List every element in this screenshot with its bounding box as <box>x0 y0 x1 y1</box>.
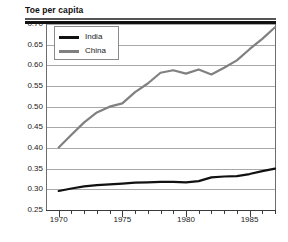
legend-swatch-china <box>59 50 79 53</box>
x-axis-minor-tick <box>275 210 276 214</box>
y-axis-tick-label: 0.25 <box>27 206 43 214</box>
title-underline <box>25 18 276 20</box>
y-axis-tick-label: 0.45 <box>27 123 43 131</box>
x-axis-minor-tick <box>161 210 162 214</box>
x-axis-minor-tick <box>211 210 212 214</box>
y-axis-tick-label: 0.40 <box>27 144 43 152</box>
legend-label-china: China <box>85 47 106 55</box>
x-axis-minor-tick <box>135 210 136 214</box>
x-axis-minor-tick <box>84 210 85 214</box>
y-axis-tick-label: 0.70 <box>27 20 43 28</box>
chart-legend: India China <box>54 26 119 60</box>
x-axis-minor-tick <box>173 210 174 214</box>
x-axis-minor-tick <box>148 210 149 214</box>
y-axis-tick-label: 0.65 <box>27 41 43 49</box>
x-axis-minor-tick <box>97 210 98 214</box>
plot-right-border <box>275 24 276 210</box>
chart-title: Toe per capita <box>25 5 83 15</box>
y-axis-tick-label: 0.30 <box>27 185 43 193</box>
x-axis-minor-tick <box>110 210 111 214</box>
chart-container: Toe per capita 0.700.650.600.550.500.450… <box>0 0 288 242</box>
series-line-india <box>59 169 275 191</box>
x-axis-tick-label: 1980 <box>177 216 195 224</box>
x-axis-minor-tick <box>71 210 72 214</box>
y-axis-tick-label: 0.35 <box>27 165 43 173</box>
legend-item-india: India <box>59 30 114 44</box>
y-axis-tick-label: 0.50 <box>27 103 43 111</box>
y-axis-tick-label: 0.55 <box>27 82 43 90</box>
x-axis-minor-tick <box>262 210 263 214</box>
x-axis-minor-tick <box>224 210 225 214</box>
legend-label-india: India <box>85 33 102 41</box>
x-axis-tick-label: 1970 <box>50 216 68 224</box>
y-axis-tick-label: 0.60 <box>27 61 43 69</box>
x-axis-minor-tick <box>237 210 238 214</box>
x-axis-minor-tick <box>199 210 200 214</box>
legend-item-china: China <box>59 44 114 58</box>
x-axis-tick-label: 1975 <box>113 216 131 224</box>
legend-swatch-india <box>59 36 79 39</box>
x-axis-tick-label: 1985 <box>241 216 259 224</box>
